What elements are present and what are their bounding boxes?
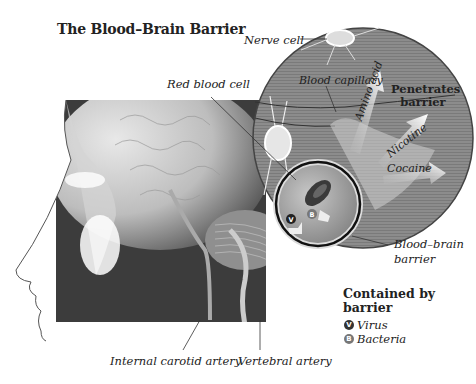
label-vertebral-artery: Vertebral artery [238,354,332,368]
contained-heading: Contained by barrier [343,287,435,315]
penetrates-heading: Penetrates barrier [391,83,455,109]
figure-title: The Blood–Brain Barrier [57,21,245,37]
label-internal-carotid-artery: Internal carotid artery [110,354,241,368]
label-nerve-cell: Nerve cell [244,33,304,47]
legend-item-virus: V Virus [344,318,406,332]
label-red-blood-cell: Red blood cell [167,77,250,91]
contained-legend: V Virus B Bacteria [344,318,406,346]
virus-badge-icon: V [344,320,354,330]
magnified-circle: V B [253,28,473,248]
bacteria-badge-icon: B [344,334,354,344]
svg-text:V: V [288,216,293,224]
svg-text:B: B [310,211,315,219]
label-blood-brain-barrier: Blood–brain barrier [394,237,464,267]
legend-item-bacteria: B Bacteria [344,332,406,346]
arrow-label-cocaine: Cocaine [387,162,432,175]
